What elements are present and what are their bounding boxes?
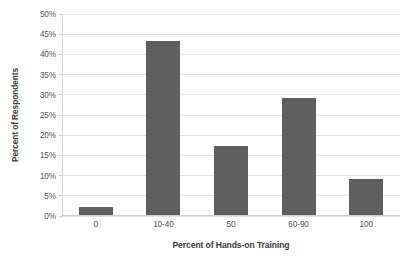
- y-tick-label: 35%: [40, 70, 56, 79]
- y-axis-title-label: Percent of Respondents: [10, 68, 20, 162]
- plot-area: [62, 14, 400, 216]
- bar: [79, 207, 113, 215]
- y-tick-label: 15%: [40, 151, 56, 160]
- bar: [146, 41, 180, 215]
- x-tick-label: 10-40: [153, 220, 173, 229]
- y-tick-label: 30%: [40, 90, 56, 99]
- y-tick-label: 25%: [40, 111, 56, 120]
- bar: [282, 98, 316, 215]
- bar-series: [62, 14, 400, 216]
- bar: [349, 179, 383, 215]
- y-tick-label: 10%: [40, 171, 56, 180]
- y-axis-title: Percent of Respondents: [6, 14, 24, 216]
- x-axis-tick-labels: 010-405060-90100: [62, 220, 400, 234]
- x-tick-label: 50: [227, 220, 236, 229]
- x-axis-title: Percent of Hands-on Training: [62, 240, 400, 250]
- bar-chart: Percent of Respondents 0%5%10%15%20%25%3…: [0, 0, 416, 262]
- x-tick-label: 0: [94, 220, 98, 229]
- y-tick-label: 20%: [40, 131, 56, 140]
- y-tick-label: 45%: [40, 30, 56, 39]
- y-tick-label: 0%: [44, 212, 56, 221]
- x-tick-label: 100: [360, 220, 373, 229]
- y-tick-label: 40%: [40, 50, 56, 59]
- x-axis-line: [62, 215, 400, 216]
- x-tick-label: 60-90: [288, 220, 308, 229]
- y-tick-label: 50%: [40, 10, 56, 19]
- y-axis-tick-labels: 0%5%10%15%20%25%30%35%40%45%50%: [26, 14, 56, 216]
- bar: [214, 146, 248, 215]
- y-tick-label: 5%: [44, 191, 56, 200]
